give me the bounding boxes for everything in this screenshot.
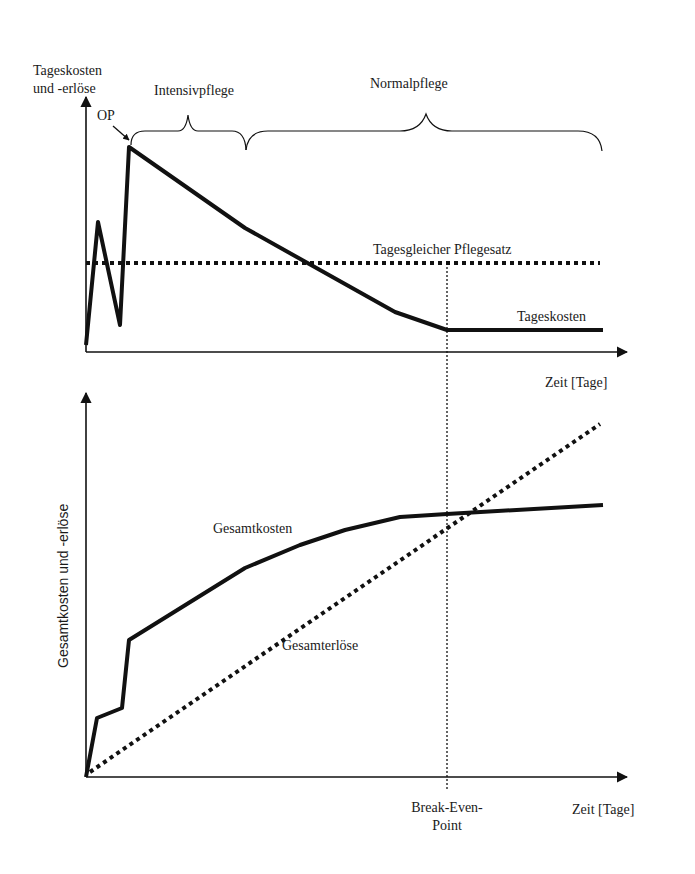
top-y-axis-label-line2: und -erlöse [33,81,96,96]
bottom-chart: Gesamtkosten und -erlöse Gesamterlöse Ge… [55,393,634,833]
cost-revenue-diagram: Tageskosten und -erlöse Zeit [Tage] OP I… [0,0,695,874]
op-label: OP [97,108,115,123]
bottom-y-axis-label: Gesamtkosten und -erlöse [55,504,71,668]
normal-care-label: Normalpflege [370,76,448,91]
normal-care-brace-icon [246,114,602,151]
total-costs-label: Gesamtkosten [213,521,292,536]
break-even-label-line1: Break-Even- [411,800,483,815]
daily-rate-label: Tagesgleicher Pflegesatz [373,242,512,257]
top-x-axis-label: Zeit [Tage] [545,375,607,390]
intensive-care-label: Intensivpflege [154,83,234,98]
total-revenue-line [90,424,600,772]
total-revenue-label: Gesamterlöse [282,638,358,653]
top-chart: Tageskosten und -erlöse Zeit [Tage] OP I… [33,63,627,390]
break-even-label-line2: Point [432,818,462,833]
op-arrow-icon [113,126,129,140]
top-y-axis-label-line1: Tageskosten [33,63,102,78]
intensive-care-brace-icon [131,115,246,150]
daily-costs-label: Tageskosten [517,309,586,324]
bottom-x-axis-label: Zeit [Tage] [572,802,634,817]
